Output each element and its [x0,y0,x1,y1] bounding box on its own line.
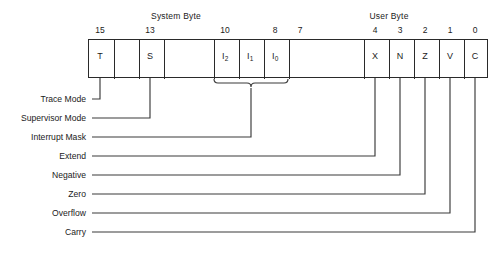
brace-interrupt-mask [214,79,288,87]
leader-overflow [92,78,450,213]
bit-number-13: 13 [143,25,157,35]
register-cell-i1: I1 [240,51,260,61]
flag-label-overflow: Overflow [0,208,86,218]
bit-number-10: 10 [218,25,232,35]
bit-number-2: 2 [418,25,432,35]
register-cell-v: V [440,51,460,61]
leader-zero [92,78,425,194]
leader-extend [92,78,375,156]
bit-number-0: 0 [468,25,482,35]
cell-divider-0 [114,40,115,79]
bit-number-1: 1 [443,25,457,35]
bit-number-15: 15 [93,25,107,35]
flag-label-interrupt-mask: Interrupt Mask [0,132,86,142]
group-caption-user-byte: User Byte [329,11,449,21]
bit-number-7: 7 [293,25,307,35]
flag-label-supervisor-mode: Supervisor Mode [0,113,86,123]
flag-label-extend: Extend [0,151,86,161]
register-cell-t: T [90,51,110,61]
flag-label-trace-mode: Trace Mode [0,94,86,104]
cell-divider-2 [164,40,165,79]
leader-carry [92,78,475,232]
cell-divider-6 [289,40,290,79]
cell-subscript: 0 [275,55,279,62]
flag-label-carry: Carry [0,227,86,237]
leader-supervisor-mode [92,78,150,118]
bit-number-8: 8 [268,25,282,35]
flag-label-negative: Negative [0,170,86,180]
register-cell-s: S [140,51,160,61]
cell-subscript: 2 [225,55,229,62]
flag-label-zero: Zero [0,189,86,199]
register-cell-n: N [390,51,410,61]
register-cell-x: X [365,51,385,61]
leader-trace-mode [92,78,100,99]
status-register-diagram: System Byte User Byte 1513108743210 TSI2… [0,0,501,253]
leader-negative [92,78,400,175]
register-cell-i0: I0 [265,51,285,61]
register-cell-z: Z [415,51,435,61]
cell-subscript: 1 [250,55,254,62]
register-cell-c: C [465,51,485,61]
bit-number-4: 4 [368,25,382,35]
leader-interrupt-mask [92,88,251,137]
group-caption-system-byte: System Byte [116,11,236,21]
register-cell-i2: I2 [215,51,235,61]
bit-number-3: 3 [393,25,407,35]
